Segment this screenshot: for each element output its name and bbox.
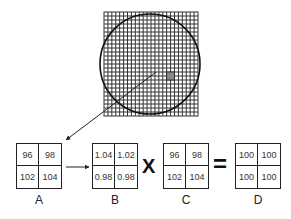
matrix-label-a: A: [16, 193, 62, 207]
matrix-b: 1.04 1.02 0.98 0.98: [92, 143, 138, 189]
matrix-cell: 104: [186, 166, 208, 188]
matrix-cell: 1.04: [93, 144, 115, 166]
matrix-cell: 100: [258, 144, 280, 166]
matrix-cell: 100: [236, 166, 258, 188]
matrix-cell: 96: [164, 144, 186, 166]
matrix-cell: 98: [186, 144, 208, 166]
matrix-label-c: C: [163, 193, 209, 207]
matrix-a: 96 98 102 104: [16, 143, 62, 189]
matrix-cell: 102: [17, 166, 39, 188]
matrix-cell: 104: [39, 166, 61, 188]
matrix-cell: 1.02: [115, 144, 137, 166]
matrix-cell: 96: [17, 144, 39, 166]
matrix-label-d: D: [235, 193, 281, 207]
matrix-cell: 100: [236, 144, 258, 166]
matrix-cell: 100: [258, 166, 280, 188]
matrix-label-b: B: [92, 193, 138, 207]
matrix-cell: 0.98: [115, 166, 137, 188]
equals-operator: =: [213, 150, 227, 178]
matrix-cell: 0.98: [93, 166, 115, 188]
diagram-stage: 96 98 102 104 1.04 1.02 0.98 0.98 96 98 …: [0, 0, 291, 219]
matrix-d: 100 100 100 100: [235, 143, 281, 189]
matrix-c: 96 98 102 104: [163, 143, 209, 189]
matrix-cell: 102: [164, 166, 186, 188]
multiply-operator: X: [142, 155, 155, 178]
matrix-cell: 98: [39, 144, 61, 166]
highlighted-pixel-block: [167, 72, 175, 80]
